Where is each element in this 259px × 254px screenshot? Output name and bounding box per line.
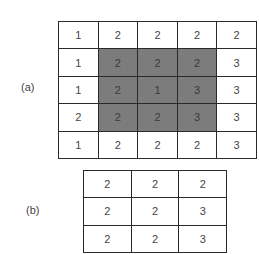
grid-cell: 2	[84, 198, 132, 225]
grid-cell: 2	[84, 225, 132, 252]
grid-cell: 3	[179, 225, 227, 252]
grid-cell: 3	[217, 76, 257, 103]
grid-cell: 3	[217, 131, 257, 158]
grid-cell: 2	[138, 22, 178, 49]
figure-a-label: (a)	[21, 81, 34, 93]
grid-cell: 3	[179, 198, 227, 225]
grid-cell: 2	[98, 131, 138, 158]
grid-cell: 2	[131, 198, 179, 225]
grid-cell: 2	[98, 22, 138, 49]
grid-cell-shaded: 3	[177, 104, 217, 131]
grid-cell-shaded: 2	[98, 104, 138, 131]
grid-cell-shaded: 2	[138, 104, 178, 131]
grid-cell: 3	[217, 49, 257, 76]
grid-cell-shaded: 3	[177, 76, 217, 103]
grid-cell: 2	[177, 22, 217, 49]
grid-cell: 1	[59, 131, 99, 158]
grid-cell: 2	[217, 22, 257, 49]
figure-a-grid: 1 2 2 2 2 1 2 2 2 3 1 2 1 3 3 2 2 2 3 3 …	[58, 21, 257, 159]
grid-cell-shaded: 2	[177, 49, 217, 76]
grid-cell: 3	[217, 104, 257, 131]
grid-cell: 2	[177, 131, 217, 158]
grid-row: 2 2 2 3 3	[59, 104, 257, 131]
grid-cell: 2	[131, 171, 179, 198]
grid-cell: 2	[138, 131, 178, 158]
grid-cell: 2	[84, 171, 132, 198]
grid-cell-shaded: 2	[98, 76, 138, 103]
grid-row: 1 2 1 3 3	[59, 76, 257, 103]
grid-row: 1 2 2 2 3	[59, 131, 257, 158]
grid-cell: 1	[59, 22, 99, 49]
grid-cell: 2	[59, 104, 99, 131]
grid-cell: 1	[59, 49, 99, 76]
grid-row: 2 2 3	[84, 225, 227, 252]
grid-cell-shaded-center: 1	[138, 76, 178, 103]
grid-cell: 2	[131, 225, 179, 252]
grid-row: 2 2 3	[84, 198, 227, 225]
grid-row: 2 2 2	[84, 171, 227, 198]
grid-cell: 1	[59, 76, 99, 103]
figure-b-grid: 2 2 2 2 2 3 2 2 3	[83, 170, 227, 253]
grid-row: 1 2 2 2 3	[59, 49, 257, 76]
grid-cell-shaded: 2	[138, 49, 178, 76]
grid-cell-shaded: 2	[98, 49, 138, 76]
figure-b-label: (b)	[26, 204, 39, 216]
grid-row: 1 2 2 2 2	[59, 22, 257, 49]
grid-cell: 2	[179, 171, 227, 198]
